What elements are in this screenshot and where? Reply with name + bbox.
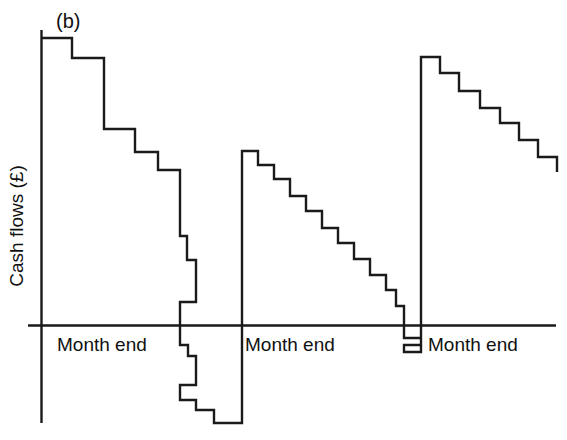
- y-axis-label: Cash flows (£): [6, 165, 27, 286]
- x-tick-label-month-end-3: Month end: [428, 334, 518, 355]
- x-tick-label-month-end-2: Month end: [245, 334, 335, 355]
- cash-flow-series-line: [41, 38, 557, 423]
- cash-flow-figure: (b) Cash flows (£) Month end Month end M…: [0, 0, 567, 440]
- panel-label: (b): [56, 10, 80, 32]
- x-tick-label-month-end-1: Month end: [57, 334, 147, 355]
- cash-flow-chart: (b) Cash flows (£) Month end Month end M…: [0, 0, 567, 440]
